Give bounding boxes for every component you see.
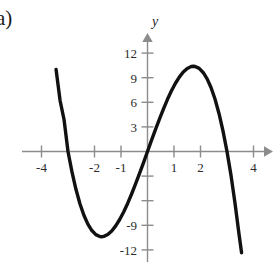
y-axis-arrowhead — [142, 33, 152, 42]
x-tick-label-2: 2 — [197, 160, 204, 175]
cubic-function-plot: y -4 -2 -1 1 2 4 12 9 — [0, 0, 275, 264]
x-axis-arrowhead — [264, 146, 273, 156]
x-tick-label-1: 1 — [171, 160, 178, 175]
y-axis-name: y — [150, 14, 159, 29]
figure-container: a) y -4 -2 -1 1 2 4 — [0, 0, 275, 264]
y-tick-label-6: 6 — [131, 95, 138, 110]
y-tick-label-12: 12 — [124, 46, 137, 61]
y-tick-label--9: -9 — [126, 218, 137, 233]
x-tick-label--1: -1 — [116, 160, 127, 175]
x-tick-label--4: -4 — [36, 160, 47, 175]
y-tick-label-9: 9 — [131, 71, 138, 86]
x-tick-label-4: 4 — [250, 160, 257, 175]
y-tick-label--12: -12 — [120, 243, 137, 258]
y-tick-label-3: 3 — [131, 120, 138, 135]
x-tick-label--2: -2 — [89, 160, 100, 175]
